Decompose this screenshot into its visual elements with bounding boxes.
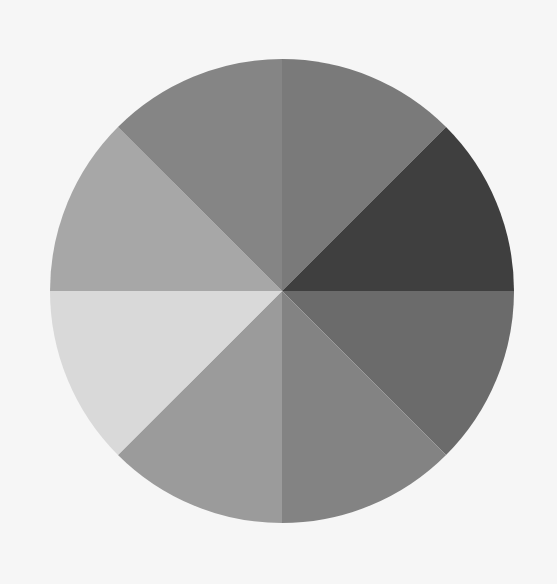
canvas <box>0 0 557 584</box>
wheel-graphic <box>50 59 514 523</box>
grayscale-wheel <box>50 59 514 523</box>
